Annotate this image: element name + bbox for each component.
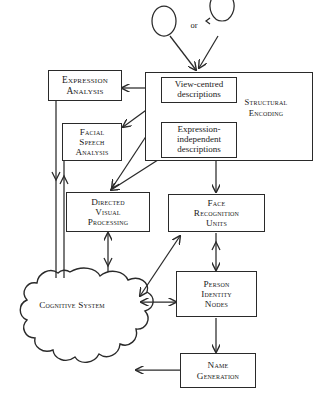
node-facial-speech-analysis[interactable]: Facial Speech Analysis	[62, 123, 122, 161]
directed-visual-processing-line-1: Directed	[91, 197, 125, 207]
face-recognition-model-diagram: or Expression Analysis Facial Speech Ana…	[0, 0, 317, 404]
facial-speech-analysis-line-3: Analysis	[76, 147, 109, 157]
node-name-generation[interactable]: Name Generation	[180, 353, 256, 388]
cognitive-system-line-2: System	[78, 300, 105, 310]
node-person-identity-nodes[interactable]: Person Identity Nodes	[176, 271, 257, 317]
front-face-outline	[152, 6, 176, 36]
view-centred-line-2: descriptions	[177, 90, 221, 100]
cognitive-system-line-1: Cognitive	[39, 300, 76, 310]
facial-speech-analysis-line-2: Speech	[79, 137, 104, 147]
face-recognition-units-line-3: Units	[206, 218, 227, 228]
cognitive-system-cloud	[20, 268, 153, 362]
face-recognition-units-line-1: Face	[208, 198, 226, 208]
expression-independent-line-3: descriptions	[177, 145, 221, 155]
node-face-recognition-units[interactable]: Face Recognition Units	[168, 194, 265, 232]
arrow-front-face-to-structural	[170, 36, 196, 70]
facial-speech-analysis-line-1: Facial	[80, 127, 105, 137]
node-cognitive-system[interactable]: Cognitive System	[20, 300, 124, 311]
person-identity-nodes-line-1: Person	[204, 279, 230, 289]
directed-visual-processing-line-2: Visual	[95, 207, 121, 217]
name-generation-line-2: Generation	[197, 371, 239, 381]
node-view-centred-descriptions[interactable]: View-centred descriptions	[161, 77, 237, 103]
arrow-expression-independent-to-directed-visual	[111, 158, 161, 190]
structural-encoding-label: Structural Encoding	[228, 97, 304, 118]
name-generation-line-1: Name	[208, 360, 229, 370]
arrow-cognitive-to-face-recognition-units	[140, 236, 180, 296]
node-expression-independent-descriptions[interactable]: Expression- independent descriptions	[161, 122, 237, 158]
person-identity-nodes-line-3: Nodes	[205, 299, 228, 309]
face-recognition-units-line-2: Recognition	[194, 208, 239, 218]
structural-encoding-line-1: Structural	[228, 97, 304, 108]
node-expression-analysis[interactable]: Expression Analysis	[48, 70, 122, 101]
node-directed-visual-processing[interactable]: Directed Visual Processing	[66, 192, 150, 232]
structural-encoding-line-2: Encoding	[228, 108, 304, 119]
arrow-profile-face-to-structural	[199, 36, 218, 68]
expression-analysis-line-2: Analysis	[66, 86, 103, 97]
stimulus-or-label: or	[183, 20, 205, 30]
profile-face-outline	[206, 0, 234, 24]
expression-analysis-line-1: Expression	[62, 75, 108, 86]
diagram-connector-layer	[0, 0, 317, 404]
person-identity-nodes-line-2: Identity	[201, 289, 232, 299]
directed-visual-processing-line-3: Processing	[88, 217, 128, 227]
